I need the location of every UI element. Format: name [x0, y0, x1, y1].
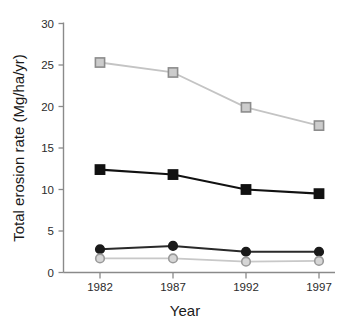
- data-point: [95, 165, 104, 174]
- y-tick-marks: [59, 24, 64, 273]
- y-tick-label-15: 15: [41, 142, 54, 154]
- series-lines: [100, 63, 319, 262]
- erosion-rate-line-chart: 0 5 10 15 20 25 30 1982 1987 1992 1997 Y…: [0, 0, 349, 323]
- series-line-black-filled-circle: [100, 246, 319, 252]
- y-tick-label-30: 30: [41, 18, 54, 30]
- y-tick-labels: 0 5 10 15 20 25 30: [41, 18, 54, 279]
- x-tick-label-1997: 1997: [306, 281, 332, 293]
- data-point: [168, 170, 177, 179]
- y-axis-title: Total erosion rate (Mg/ha/yr): [10, 54, 27, 242]
- x-tick-marks: [100, 273, 319, 279]
- series-line-black-filled-square: [100, 170, 319, 194]
- data-point: [241, 185, 250, 194]
- data-point: [315, 247, 324, 256]
- data-point: [314, 121, 323, 130]
- x-axis-title: Year: [170, 302, 200, 319]
- y-tick-label-10: 10: [41, 184, 54, 196]
- x-tick-labels: 1982 1987 1992 1997: [87, 281, 332, 293]
- data-point: [242, 247, 251, 256]
- data-point: [168, 68, 177, 77]
- data-point: [169, 242, 178, 251]
- y-tick-label-0: 0: [48, 267, 54, 279]
- data-point: [169, 254, 178, 263]
- data-point: [241, 103, 250, 112]
- chart-canvas: 0 5 10 15 20 25 30 1982 1987 1992 1997 Y…: [0, 0, 349, 323]
- data-point: [95, 58, 104, 67]
- series-line-gray-open-square: [100, 63, 319, 126]
- x-tick-label-1992: 1992: [233, 281, 259, 293]
- data-point: [314, 189, 323, 198]
- data-point: [242, 257, 251, 266]
- x-tick-label-1987: 1987: [160, 281, 186, 293]
- y-tick-label-5: 5: [48, 225, 54, 237]
- data-point: [96, 254, 105, 263]
- data-point: [315, 257, 324, 266]
- y-tick-label-25: 25: [41, 59, 54, 71]
- data-point: [96, 245, 105, 254]
- series-line-gray-open-circle: [100, 258, 319, 261]
- y-tick-label-20: 20: [41, 101, 54, 113]
- markers-gray-open-square: [95, 58, 323, 130]
- x-tick-label-1982: 1982: [87, 281, 113, 293]
